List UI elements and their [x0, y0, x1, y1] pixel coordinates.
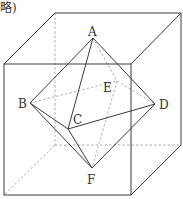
edge-BC [30, 103, 68, 129]
octahedron-visible-edges [30, 38, 155, 168]
label-F: F [87, 173, 95, 187]
edge-CF [68, 129, 92, 168]
edge-DF [92, 104, 155, 168]
cube-depth-top-right-edge [131, 13, 181, 64]
label-A: A [87, 25, 97, 39]
octahedron-hidden-edges [30, 38, 155, 168]
cube-depth-bottom-right-edge [131, 145, 181, 195]
label-B: B [18, 97, 27, 111]
cube-depth-bottom-left-edge [4, 145, 55, 195]
cube-depth-top-left-edge [4, 13, 55, 64]
edge-AB [30, 38, 93, 103]
cube-front-face [4, 64, 131, 195]
label-D: D [159, 98, 169, 112]
label-C: C [73, 113, 82, 127]
label-E: E [103, 81, 112, 95]
edge-BF [30, 103, 92, 168]
figure-caption: 略) [0, 0, 17, 15]
cube-octahedron-diagram: A B C D E F [0, 0, 183, 199]
